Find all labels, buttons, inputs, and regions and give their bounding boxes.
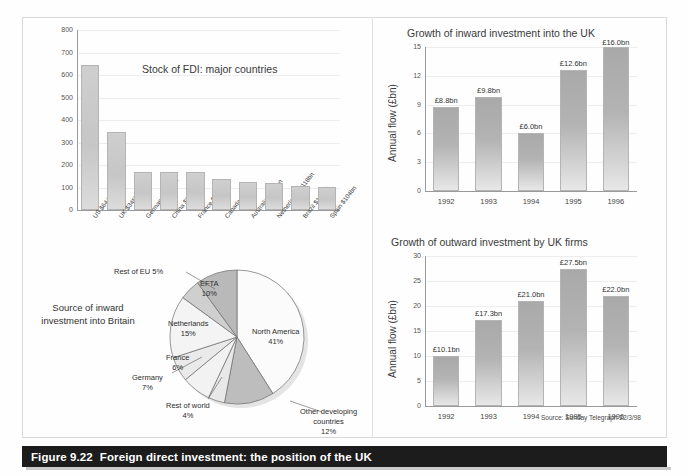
bar-value-label: £21.0bn	[504, 290, 558, 299]
y-tick-label-stock: 300	[45, 139, 73, 146]
bar-value-label: £27.5bn	[546, 258, 600, 267]
x-tick-label: 1995	[550, 197, 596, 206]
bar-value-label: £9.8bn	[461, 86, 515, 95]
chart-title-inward: Growth of inward investment into the UK	[407, 27, 595, 39]
pie-label-rest-of-eu: Rest of EU 5%	[114, 267, 163, 277]
chart-source-of-inward-investment: Source of inwardinvestment into Britain …	[22, 249, 372, 439]
pie-label-netherlands: Netherlands15%	[168, 319, 208, 339]
bar	[475, 320, 501, 407]
y-axis-label-outward: Annual flow (£bn)	[387, 300, 398, 378]
bar	[603, 47, 629, 191]
bar	[475, 97, 501, 191]
figure-title: Foreign direct investment: the position …	[100, 451, 372, 463]
bar	[433, 356, 459, 407]
bar-stock	[134, 172, 152, 210]
y-tick-label-stock: 100	[45, 184, 73, 191]
x-tick-label: 1993	[465, 197, 511, 206]
x-tick-label: 1996	[593, 412, 639, 421]
chart-inward-investment-growth: Growth of inward investment into the UK …	[373, 17, 667, 228]
bar-value-label: £10.1bn	[419, 345, 473, 354]
y-tick-label: 0	[399, 402, 421, 409]
pie-label-other-developing: Other developingcountries12%	[300, 407, 357, 437]
x-axis	[425, 406, 637, 407]
x-tick-label: 1994	[508, 412, 554, 421]
x-tick-label: 1994	[508, 197, 554, 206]
grid-line-stock	[77, 53, 340, 54]
bar-stock	[186, 172, 204, 210]
bar	[603, 296, 629, 406]
bar-value-label: £16.0bn	[589, 38, 643, 47]
pie-label-france: France6%	[166, 353, 189, 373]
figure-caption-bar: Figure 9.22 Foreign direct investment: t…	[22, 446, 667, 467]
x-tick-label: 1996	[593, 197, 639, 206]
y-tick-label: 15	[399, 43, 421, 50]
y-tick-label-stock: 200	[45, 161, 73, 168]
caption-shadow	[26, 467, 671, 470]
chart-title-outward: Growth of outward investment by UK firms	[391, 236, 588, 248]
grid-line	[425, 281, 637, 282]
pie-label-efta: EFTA10%	[200, 279, 219, 299]
chart-stock-of-fdi: Stock of FDI: major countries 0100200300…	[22, 17, 372, 249]
bar	[560, 269, 586, 407]
y-tick-label-stock: 500	[45, 94, 73, 101]
bar-value-label: £6.0bn	[504, 122, 558, 131]
bar-value-label: £12.6bn	[546, 59, 600, 68]
y-tick-label: 25	[399, 277, 421, 284]
bar	[433, 107, 459, 191]
y-axis	[425, 256, 426, 406]
x-tick-label: 1992	[423, 412, 469, 421]
y-tick-label-stock: 700	[45, 49, 73, 56]
y-tick-label: 9	[399, 101, 421, 108]
y-tick-label: 15	[399, 327, 421, 334]
pie-label-germany: Germany7%	[132, 373, 163, 393]
y-axis-label-inward: Annual flow (£bn)	[387, 84, 398, 162]
figure-page: Stock of FDI: major countries 0100200300…	[0, 0, 689, 476]
bar-stock	[212, 179, 230, 210]
grid-line-stock	[77, 98, 340, 99]
bar-value-label: £8.8bn	[419, 96, 473, 105]
pie-label-rest-of-world: Rest of world4%	[166, 401, 210, 421]
bar-stock	[160, 172, 178, 210]
y-tick-label: 3	[399, 158, 421, 165]
figure-number: Figure 9.22	[31, 451, 93, 463]
y-tick-label: 12	[399, 72, 421, 79]
bar-stock	[239, 182, 257, 210]
y-tick-label-stock: 400	[45, 116, 73, 123]
y-tick-label: 30	[399, 252, 421, 259]
bar	[518, 133, 544, 191]
pie-label-north-america: North America41%	[252, 327, 300, 347]
grid-line-stock	[77, 120, 340, 121]
y-axis-stock	[77, 30, 78, 210]
y-tick-label: 6	[399, 129, 421, 136]
x-axis	[425, 191, 637, 192]
bar	[560, 70, 586, 191]
grid-line-stock	[77, 75, 340, 76]
x-tick-label: 1993	[465, 412, 511, 421]
y-tick-label-stock: 0	[45, 206, 73, 213]
bar-value-label: £22.0bn	[589, 285, 643, 294]
bar-stock	[81, 65, 99, 210]
y-tick-label: 5	[399, 377, 421, 384]
y-tick-label-stock: 800	[45, 26, 73, 33]
bar-stock	[107, 132, 125, 210]
bar	[518, 301, 544, 406]
grid-line	[425, 256, 637, 257]
y-tick-label: 10	[399, 352, 421, 359]
chart-outward-investment-growth: Growth of outward investment by UK firms…	[373, 228, 667, 438]
y-tick-label-stock: 600	[45, 71, 73, 78]
bar-value-label: £17.3bn	[461, 309, 515, 318]
y-tick-label: 0	[399, 187, 421, 194]
x-tick-label: 1995	[550, 412, 596, 421]
y-tick-label: 20	[399, 302, 421, 309]
grid-line-stock	[77, 30, 340, 31]
y-axis	[425, 47, 426, 191]
x-tick-label: 1992	[423, 197, 469, 206]
